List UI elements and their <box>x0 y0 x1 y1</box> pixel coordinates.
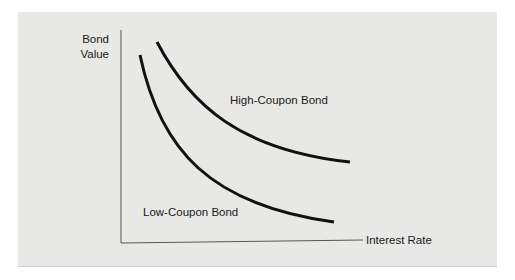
y-axis-label-line2: Value <box>72 47 109 62</box>
x-axis-label: Interest Rate <box>366 233 432 248</box>
high-coupon-label: High-Coupon Bond <box>230 93 328 108</box>
y-axis-label-line1: Bond <box>72 32 109 47</box>
x-axis <box>121 240 363 243</box>
low-coupon-label: Low-Coupon Bond <box>143 205 238 220</box>
y-axis-label: Bond Value <box>72 32 109 62</box>
low-coupon-curve <box>140 55 334 222</box>
